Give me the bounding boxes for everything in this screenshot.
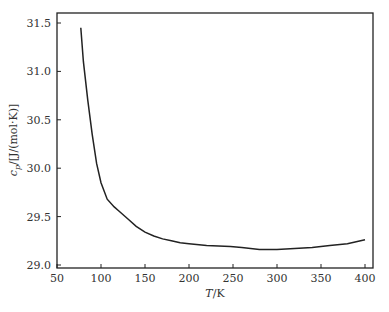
data-series-cp <box>81 28 365 250</box>
y-tick-label: 31.0 <box>27 65 52 78</box>
y-tick-label: 29.5 <box>27 211 52 224</box>
y-axis-ticks: 29.029.530.030.531.031.5 <box>27 17 62 272</box>
x-tick-label: 300 <box>267 272 288 285</box>
x-tick-label: 200 <box>179 272 200 285</box>
y-tick-label: 30.0 <box>27 162 52 175</box>
y-axis-label: cp/[J/(mol·K)] <box>7 104 22 177</box>
y-tick-label: 29.0 <box>27 259 52 272</box>
x-axis-ticks: 50100150200250300350400 <box>50 264 376 285</box>
x-tick-label: 400 <box>355 272 376 285</box>
plot-frame <box>57 13 373 268</box>
x-tick-label: 350 <box>311 272 332 285</box>
y-tick-label: 31.5 <box>27 17 52 30</box>
x-axis-label: T/K <box>205 287 225 300</box>
x-tick-label: 100 <box>91 272 112 285</box>
chart: 50100150200250300350400 29.029.530.030.5… <box>0 0 389 312</box>
x-tick-label: 250 <box>223 272 244 285</box>
y-tick-label: 30.5 <box>27 114 52 127</box>
x-tick-label: 150 <box>135 272 156 285</box>
x-tick-label: 50 <box>50 272 64 285</box>
